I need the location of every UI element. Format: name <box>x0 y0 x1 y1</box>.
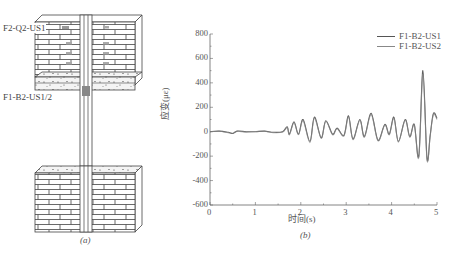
x-axis-label: 时间(s) <box>288 212 316 225</box>
chart-series <box>210 71 437 163</box>
y-tick-label: 0 <box>204 126 208 136</box>
series-line-2 <box>210 74 437 162</box>
y-tick-label: 600 <box>195 52 208 62</box>
diagram-caption: (a) <box>80 235 91 245</box>
y-tick-label: 200 <box>195 101 208 111</box>
y-tick-label: -200 <box>192 150 208 160</box>
strain-time-chart: F1-B2-US1 F1-B2-US2 8006004002000-200-40… <box>150 0 459 250</box>
series-line-1 <box>210 71 437 162</box>
legend-item-us2: F1-B2-US2 <box>377 41 441 51</box>
y-axis-label: 应变(με) <box>158 87 171 120</box>
y-tick-label: -600 <box>192 199 208 209</box>
lower-wall <box>35 166 142 232</box>
sensor-label-top: F2-Q2-US1 <box>3 23 46 33</box>
x-tick-label: 0 <box>207 207 211 217</box>
chart-legend: F1-B2-US1 F1-B2-US2 <box>377 31 441 51</box>
legend-swatch-icon <box>377 36 395 37</box>
legend-item-us1: F1-B2-US1 <box>377 31 441 41</box>
x-tick-label: 4 <box>389 207 393 217</box>
wall-schematic-diagram: F2-Q2-US1 F1-B2-US1/2 (a) <box>0 0 170 245</box>
sensor-label-mid: F1-B2-US1/2 <box>3 92 52 102</box>
x-tick-label: 1 <box>252 207 256 217</box>
masonry-wall-drawing <box>0 0 170 245</box>
y-tick-label: -400 <box>192 175 208 185</box>
y-tick-label: 800 <box>195 28 208 38</box>
legend-swatch-icon <box>377 46 395 47</box>
y-tick-label: 400 <box>195 77 208 87</box>
chart-axes <box>210 34 437 205</box>
x-tick-label: 5 <box>434 207 438 217</box>
chart-caption: (b) <box>300 230 311 240</box>
x-tick-label: 3 <box>343 207 347 217</box>
